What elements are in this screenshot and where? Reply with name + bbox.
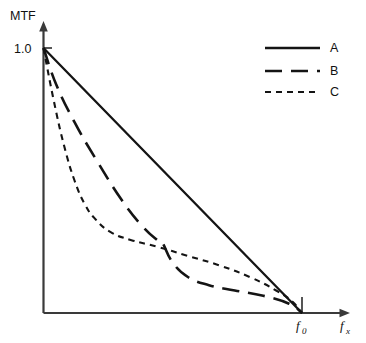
y-axis-label: MTF <box>10 9 36 23</box>
x-tick-label-subscript: 0 <box>302 326 307 336</box>
x-axis-label-subscript: x <box>345 326 350 336</box>
legend-label-c: C <box>330 85 339 99</box>
legend-label-a: A <box>330 41 339 55</box>
y-axis-tick-label: 1.0 <box>14 42 31 56</box>
chart-background <box>0 0 366 343</box>
mtf-chart: MTF 1.0 f 0 f x A B C <box>0 0 366 343</box>
legend-label-b: B <box>330 64 338 78</box>
